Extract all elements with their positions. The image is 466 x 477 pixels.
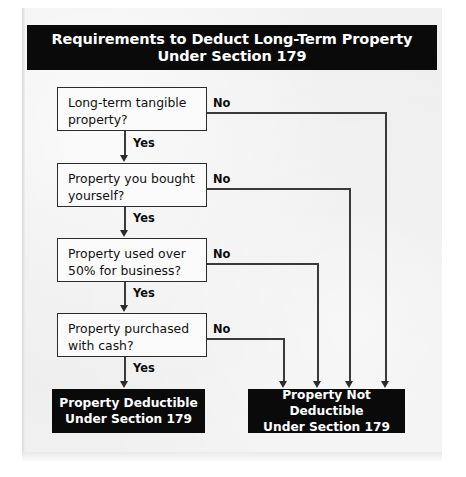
connector-yes-3-line	[124, 282, 126, 306]
terminal-box-property-deductible[interactable]: Property Deductible Under Section 179	[52, 389, 205, 433]
connector-yes-2-line	[124, 207, 126, 231]
terminal-deductible-line-2: Under Section 179	[65, 411, 192, 427]
connector-no-4-arrowhead	[279, 381, 287, 388]
connector-yes-4-label: Yes	[133, 361, 155, 375]
connector-yes-2-label: Yes	[133, 211, 155, 225]
decision-4-line-2: with cash?	[68, 338, 197, 355]
page-left-edge	[22, 8, 25, 460]
decision-box-property-used-over-50-percent[interactable]: Property used over 50% for business?	[57, 238, 207, 282]
connector-no-3-label: No	[213, 247, 230, 261]
connector-no-4-label: No	[213, 322, 230, 336]
decision-2-line-2: yourself?	[68, 188, 197, 205]
connector-no-2-horizontal	[207, 188, 351, 190]
connector-no-1-horizontal	[207, 112, 387, 114]
connector-no-4-horizontal	[207, 338, 285, 340]
decision-box-property-purchased-with-cash[interactable]: Property purchased with cash?	[57, 313, 207, 357]
flowchart-page: Requirements to Deduct Long-Term Propert…	[0, 0, 466, 477]
terminal-deductible-line-1: Property Deductible	[59, 395, 198, 411]
connector-yes-1-arrowhead	[120, 155, 128, 162]
connector-no-2-arrowhead	[345, 381, 353, 388]
connector-no-2-label: No	[213, 172, 230, 186]
chart-title-line-1: Requirements to Deduct Long-Term Propert…	[52, 31, 413, 48]
connector-no-3-horizontal	[207, 263, 319, 265]
chart-title-line-2: Under Section 179	[157, 48, 306, 65]
decision-box-property-you-bought-yourself[interactable]: Property you bought yourself?	[57, 163, 207, 207]
connector-yes-3-arrowhead	[120, 305, 128, 312]
page-bottom-edge	[22, 452, 442, 461]
decision-2-line-1: Property you bought	[68, 171, 197, 188]
connector-yes-3-label: Yes	[133, 286, 155, 300]
terminal-not-deductible-line-1: Property Not Deductible	[248, 387, 405, 419]
connector-yes-2-arrowhead	[120, 230, 128, 237]
terminal-not-deductible-line-2: Under Section 179	[263, 419, 390, 435]
connector-no-3-arrowhead	[313, 381, 321, 388]
chart-title-banner: Requirements to Deduct Long-Term Propert…	[27, 25, 437, 70]
connector-yes-1-label: Yes	[133, 136, 155, 150]
decision-box-long-term-tangible-property[interactable]: Long-term tangible property?	[57, 87, 207, 131]
decision-3-line-1: Property used over	[68, 246, 197, 263]
connector-no-1-vertical	[385, 112, 387, 382]
decision-1-line-2: property?	[68, 112, 197, 129]
connector-yes-4-arrowhead	[120, 381, 128, 388]
decision-1-line-1: Long-term tangible	[68, 95, 197, 112]
connector-no-1-label: No	[213, 96, 230, 110]
connector-no-4-vertical	[283, 338, 285, 382]
connector-no-1-arrowhead	[381, 381, 389, 388]
connector-no-3-vertical	[317, 263, 319, 382]
decision-3-line-2: 50% for business?	[68, 263, 197, 280]
connector-yes-1-line	[124, 131, 126, 156]
decision-4-line-1: Property purchased	[68, 321, 197, 338]
connector-yes-4-line	[124, 357, 126, 382]
terminal-box-property-not-deductible[interactable]: Property Not Deductible Under Section 17…	[248, 389, 405, 433]
connector-no-2-vertical	[349, 188, 351, 382]
